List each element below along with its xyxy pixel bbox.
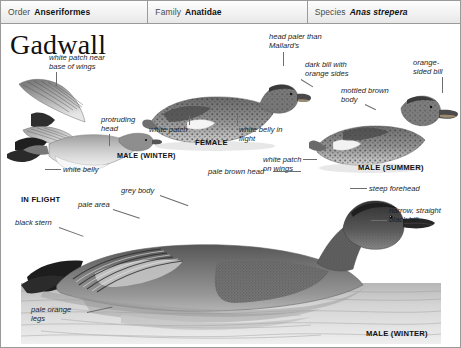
label-white-belly: white belly [63,165,98,174]
taxonomy-header: Order Anseriformes Family Anatidae Speci… [0,0,461,24]
taxonomy-order-rank: Order [8,7,30,17]
caption-male-summer: MALE (SUMMER) [358,164,424,172]
label-grey-body: grey body [121,186,154,195]
taxonomy-family-rank: Family [155,7,181,17]
caption-male-winter-flight: MALE (WINTER) [117,152,176,160]
caption-male-winter-main: MALE (WINTER) [366,330,428,338]
leader-protruding-head [109,134,110,146]
leader-white-belly [45,169,61,170]
taxonomy-order-cell: Order Anseriformes [1,0,148,24]
label-black-stern: black stern [15,218,52,227]
label-dark-bill-orange: dark bill with orange sides [305,60,348,78]
label-pale-area: pale area [78,200,110,209]
label-white-patch: white patch [149,125,187,134]
leader-head-paler [283,52,284,66]
leader-white-patch-on-wings [303,159,317,160]
leader-narrow-black-bill [371,220,387,221]
label-white-belly-flight: white belly in flight [239,125,282,143]
field-guide-page: Order Anseriformes Family Anatidae Speci… [0,0,461,348]
taxonomy-family-cell: Family Anatidae [148,0,307,24]
leader-white-patch [189,116,190,125]
label-pale-orange-legs: pale orange legs [31,305,71,323]
leader-white-belly-flight [237,116,238,126]
label-orange-sided-bill: orange- sided bill [413,58,443,76]
caption-female: FEMALE [195,139,228,147]
taxonomy-species-cell: Species Anas strepera [308,0,460,24]
label-mottled-brown: mottled brown body [341,86,389,104]
label-steep-forehead: steep forehead [369,184,420,193]
taxonomy-family-value: Anatidae [185,7,222,17]
leader-white-patch-wings [56,72,57,86]
caption-in-flight: IN FLIGHT [21,196,60,204]
illustration-plate: Gadwall [0,24,461,348]
label-white-patch-wings: white patch near base of wings [49,53,105,71]
taxonomy-species-value: Anas strepera [350,7,408,17]
label-head-paler: head paler than Mallard's [269,32,322,50]
label-narrow-black-bill: narrow, straight black bill [389,206,441,224]
label-protruding-head: protruding head [101,115,135,133]
leader-pale-brown-head [273,171,301,172]
label-pale-brown-head: pale brown head [208,167,264,176]
taxonomy-order-value: Anseriformes [34,7,90,17]
leader-orange-sided-bill [442,77,443,93]
leader-steep-forehead [350,188,367,189]
taxonomy-species-rank: Species [315,7,346,17]
